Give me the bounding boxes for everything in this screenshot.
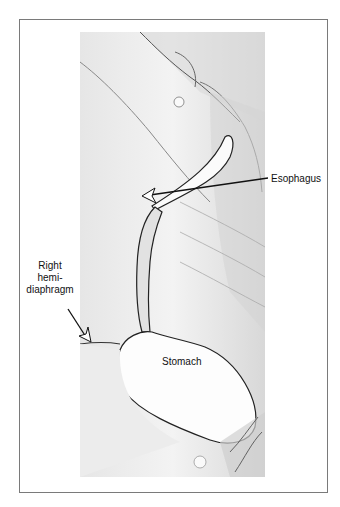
label-right-hemidiaphragm: Right hemi- diaphragm	[22, 260, 78, 296]
esophagus-pointer-line	[150, 178, 268, 195]
annotation-arrows	[0, 0, 340, 507]
label-esophagus: Esophagus	[271, 173, 321, 185]
label-stomach: Stomach	[162, 356, 201, 368]
hemidiaphragm-pointer-line	[68, 309, 86, 337]
label-line-2: hemi-	[22, 272, 78, 284]
esophagus-arrowhead-icon	[142, 188, 156, 203]
label-line-1: Right	[22, 260, 78, 272]
label-line-3: diaphragm	[22, 284, 78, 296]
